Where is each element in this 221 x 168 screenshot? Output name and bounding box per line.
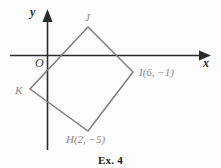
vertex-label-i: I(6, −1) xyxy=(139,67,174,78)
vertex-label-h: H(2, −5) xyxy=(66,134,105,145)
origin-label: O xyxy=(35,57,44,69)
vertex-label-k: K xyxy=(15,85,22,96)
x-axis-label: x xyxy=(203,57,209,69)
figure-exercise-4: y x O J I(6, −1) H(2, −5) K Ex. 4 xyxy=(0,0,221,168)
figure-caption: Ex. 4 xyxy=(0,154,221,166)
y-axis-label: y xyxy=(30,6,35,18)
coordinate-plane-svg xyxy=(0,0,221,168)
vertex-label-j: J xyxy=(85,12,90,23)
quadrilateral-hijk xyxy=(30,27,133,131)
y-axis-arrowhead xyxy=(43,9,53,22)
